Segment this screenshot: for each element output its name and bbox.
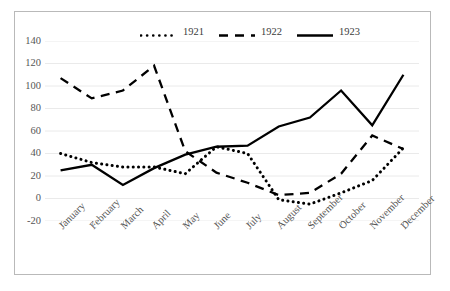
legend-swatch-dashed-icon xyxy=(218,27,256,38)
y-axis-tick-label: -20 xyxy=(27,216,41,227)
legend-entry-1921: 1921 xyxy=(140,27,204,38)
y-axis-tick-label: 40 xyxy=(31,148,42,159)
y-axis-tick-label: 140 xyxy=(25,36,41,47)
chart-legend: 1921 1922 1923 xyxy=(140,24,360,40)
legend-swatch-dotted-icon xyxy=(140,27,178,38)
series-line-1921 xyxy=(61,147,404,204)
y-axis-tick-label: 120 xyxy=(25,58,41,69)
y-axis: 140120100806040200-20 xyxy=(14,0,41,291)
plot-area xyxy=(45,41,419,221)
legend-swatch-solid-icon xyxy=(296,27,334,38)
legend-label-1921: 1921 xyxy=(183,27,204,38)
legend-entry-1923: 1923 xyxy=(296,27,360,38)
x-axis: JanuaryFebruaryMarchAprilMayJuneJulyAugu… xyxy=(45,221,419,283)
plot-svg xyxy=(45,41,419,221)
y-axis-tick-label: 100 xyxy=(25,81,41,92)
line-chart: 1921 1922 1923 140120100806040200-20 Jan… xyxy=(0,0,450,291)
y-axis-tick-label: 20 xyxy=(31,171,42,182)
series-line-1923 xyxy=(61,75,404,185)
legend-label-1923: 1923 xyxy=(339,27,360,38)
y-axis-tick-label: 80 xyxy=(31,103,42,114)
y-axis-tick-label: 0 xyxy=(36,193,41,204)
legend-entry-1922: 1922 xyxy=(218,27,282,38)
y-axis-tick-label: 60 xyxy=(31,126,42,137)
legend-label-1922: 1922 xyxy=(261,27,282,38)
